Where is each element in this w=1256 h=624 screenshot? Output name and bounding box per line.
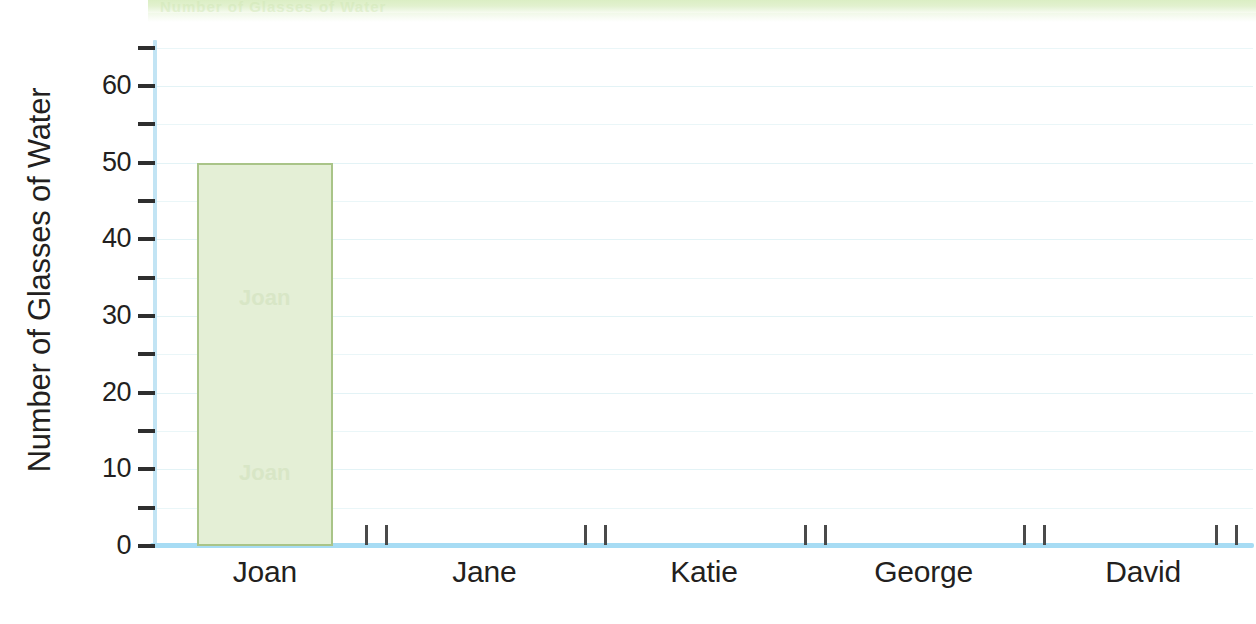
y-tick-label: 0 bbox=[116, 530, 131, 561]
bar-ghost-text: Joan bbox=[199, 460, 331, 486]
x-axis-label-george: George bbox=[874, 555, 973, 589]
page-header-banner: Number of Glasses of Water bbox=[148, 0, 1256, 13]
x-tick-mark bbox=[1023, 525, 1026, 545]
bar-ghost-text: Joan bbox=[199, 285, 331, 311]
y-tick-mark bbox=[138, 429, 155, 433]
banner-fade bbox=[148, 13, 1256, 22]
gridline bbox=[155, 124, 1253, 125]
gridline bbox=[155, 48, 1253, 49]
x-axis-label-david: David bbox=[1105, 555, 1181, 589]
y-tick-mark bbox=[138, 506, 155, 510]
y-tick-mark bbox=[138, 199, 155, 203]
x-axis-label-katie: Katie bbox=[670, 555, 737, 589]
bar-joan[interactable]: JoanJoan bbox=[197, 163, 333, 546]
x-axis-label-joan: Joan bbox=[233, 555, 297, 589]
y-tick-mark bbox=[138, 46, 155, 50]
y-tick-mark bbox=[138, 352, 155, 356]
y-tick-mark bbox=[138, 391, 155, 395]
x-tick-mark bbox=[824, 525, 827, 545]
chart-page: Number of Glasses of Water Number of Gla… bbox=[0, 0, 1256, 624]
y-tick-label: 40 bbox=[102, 223, 131, 254]
y-tick-label: 50 bbox=[102, 147, 131, 178]
x-tick-mark bbox=[1235, 525, 1238, 545]
x-tick-mark bbox=[604, 525, 607, 545]
y-tick-mark bbox=[138, 544, 155, 548]
gridline bbox=[155, 86, 1253, 87]
x-tick-mark bbox=[804, 525, 807, 545]
x-tick-mark bbox=[385, 525, 388, 545]
y-tick-mark bbox=[138, 84, 155, 88]
banner-ghost-text: Number of Glasses of Water bbox=[148, 0, 1256, 12]
x-tick-mark bbox=[584, 525, 587, 545]
y-tick-mark bbox=[138, 237, 155, 241]
y-tick-mark bbox=[138, 122, 155, 126]
y-axis-ticks: 0102030405060 bbox=[0, 0, 155, 624]
y-tick-label: 60 bbox=[102, 70, 131, 101]
y-tick-mark bbox=[138, 161, 155, 165]
x-tick-mark bbox=[365, 525, 368, 545]
y-tick-mark bbox=[138, 276, 155, 280]
x-tick-mark bbox=[1215, 525, 1218, 545]
y-tick-mark bbox=[138, 314, 155, 318]
y-tick-label: 30 bbox=[102, 300, 131, 331]
y-tick-mark bbox=[138, 467, 155, 471]
x-axis-label-jane: Jane bbox=[452, 555, 516, 589]
x-tick-mark bbox=[1043, 525, 1046, 545]
y-tick-label: 20 bbox=[102, 377, 131, 408]
y-tick-label: 10 bbox=[102, 453, 131, 484]
